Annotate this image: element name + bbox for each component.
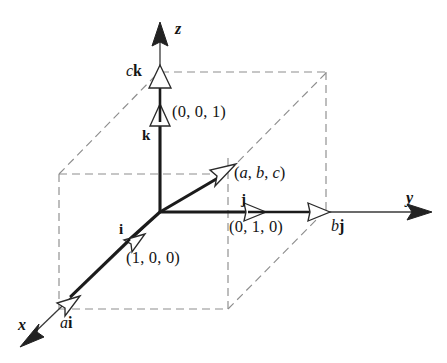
i-unit-label: i <box>119 222 123 237</box>
j-coord-label: (0, 1, 0) <box>229 219 283 236</box>
bj-arrowhead <box>308 203 330 221</box>
i-coord-label: (1, 0, 0) <box>126 250 180 267</box>
z-axis-arrowhead <box>152 22 168 46</box>
abc-vector-arrowhead <box>210 164 236 186</box>
figure-canvas <box>0 0 447 363</box>
bj-label-scalar: b <box>331 217 339 234</box>
k-coord-label: (0, 0, 1) <box>172 104 226 121</box>
ai-label-scalar: a <box>60 314 68 331</box>
j-unit-label: j <box>241 192 246 207</box>
dashed-edge-left-top-diagonal <box>59 73 158 174</box>
abc-close-paren: ) <box>280 163 286 182</box>
ai-arrowhead <box>57 296 80 316</box>
abc-comma-2: , <box>264 163 272 182</box>
ck-label: ck <box>126 63 142 79</box>
abc-coord-label: (a, b, c) <box>234 165 285 182</box>
ck-arrowhead <box>149 65 171 88</box>
k-vector-group <box>149 65 171 212</box>
x-axis-label: x <box>18 317 26 333</box>
k-unit-label: k <box>142 128 150 143</box>
bj-label: bj <box>331 218 344 234</box>
ai-label: ai <box>60 315 72 331</box>
bj-label-unit: j <box>339 217 344 234</box>
abc-b: b <box>256 163 264 182</box>
dashed-edge-top-diagonal <box>226 73 326 174</box>
ai-shaft <box>70 239 130 297</box>
ck-label-unit: k <box>133 62 142 79</box>
abc-comma-1: , <box>248 163 256 182</box>
abc-vector-shaft <box>160 178 218 212</box>
z-axis-label: z <box>175 21 181 37</box>
ai-label-unit: i <box>68 314 72 331</box>
coordinate-axes <box>20 22 432 347</box>
abc-c: c <box>273 163 280 182</box>
y-axis-label: y <box>406 190 413 206</box>
abc-a: a <box>240 163 248 182</box>
vector-diagram-figure: z y x ck bj ai k (0, 0, 1) j (0, 1, 0) i… <box>0 0 447 363</box>
position-vector-group <box>160 164 236 212</box>
